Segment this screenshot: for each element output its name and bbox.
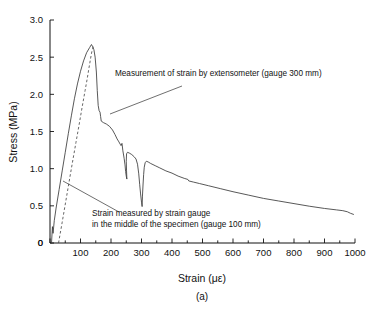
y-axis-tick-labels: 00.51.01.52.02.53.0 (30, 14, 43, 248)
panel-label: (a) (196, 291, 208, 302)
strain-gauge-curve (59, 46, 94, 243)
y-tick-label: 1.5 (30, 126, 43, 137)
annotation-group: Measurement of strain by extensometer (g… (63, 69, 322, 229)
y-axis-ticks (50, 20, 54, 243)
x-tick-label: 900 (317, 247, 333, 258)
extensometer-annotation-leader (110, 86, 182, 114)
x-tick-label: 300 (134, 247, 150, 258)
x-tick-label: 600 (225, 247, 241, 258)
y-tick-label: 3.0 (30, 14, 43, 25)
x-tick-label: 800 (286, 247, 302, 258)
strain-gauge-annotation-text: in the middle of the specimen (gauge 100… (92, 220, 261, 229)
figure-container: 00.51.01.52.02.53.0 10020030040050060070… (0, 0, 373, 310)
x-tick-label: 700 (256, 247, 272, 258)
y-tick-label: 1.0 (30, 163, 43, 174)
extensometer-annotation-text: Measurement of strain by extensometer (g… (115, 69, 322, 78)
y-tick-label: 0.5 (30, 200, 43, 211)
x-tick-label: 500 (195, 247, 211, 258)
stress-strain-chart: 00.51.01.52.02.53.0 10020030040050060070… (0, 0, 373, 310)
x-tick-label-zero: 0 (38, 237, 43, 248)
x-tick-label: 200 (103, 247, 119, 258)
strain-gauge-annotation-leader (63, 181, 119, 212)
x-axis-tick-labels: 10020030040050060070080090010000 (38, 237, 366, 258)
strain-gauge-annotation-text: Strain measured by strain gauge (92, 209, 211, 218)
y-tick-label: 2.5 (30, 52, 43, 63)
y-axis-title: Stress (MPa) (7, 101, 19, 162)
x-tick-label: 100 (73, 247, 89, 258)
x-axis-title: Strain (με) (178, 272, 226, 284)
x-tick-label: 1000 (344, 247, 365, 258)
x-tick-label: 400 (164, 247, 180, 258)
y-tick-label: 2.0 (30, 89, 43, 100)
